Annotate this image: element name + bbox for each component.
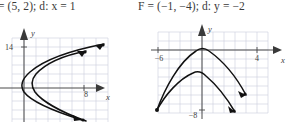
graph-panel-left: 14 8 y x bbox=[0, 20, 140, 122]
grid-right bbox=[158, 32, 268, 113]
curve-parabola-lower-right bbox=[157, 72, 235, 112]
y-axis-label-right: y bbox=[207, 24, 212, 34]
curve-endpoint-dot bbox=[81, 118, 84, 121]
y-tick-label-right: −8 bbox=[189, 111, 198, 120]
problem-left-equation: = (5, 2); d: x = 1 bbox=[0, 0, 76, 12]
y-tick-label-left: 14 bbox=[5, 43, 13, 52]
x-axis-arrow-right bbox=[273, 46, 282, 54]
curve-endpoint-dot bbox=[83, 50, 86, 53]
y-axis-arrow-right bbox=[198, 24, 206, 36]
curve-parabola-inner-left bbox=[32, 51, 86, 121]
x-tick-label-left: 8 bbox=[84, 90, 88, 99]
graph-left-svg: 14 8 y x bbox=[0, 20, 140, 122]
curve-endpoint-dot bbox=[243, 92, 246, 95]
worksheet-page: = (5, 2); d: x = 1 F = (−1, −4); d: y = … bbox=[0, 0, 303, 122]
x-axis-arrow-left bbox=[96, 84, 105, 92]
x-tick-label-right-right-graph: 4 bbox=[255, 54, 259, 63]
y-axis-arrow-left bbox=[20, 28, 28, 40]
graph-panel-right: −6 4 −8 y x bbox=[145, 20, 303, 122]
curve-parabola-outer-left bbox=[22, 44, 104, 120]
ticks-right bbox=[158, 47, 257, 110]
graph-right-svg: −6 4 −8 y x bbox=[145, 20, 303, 122]
x-axis-label-left: x bbox=[105, 92, 110, 102]
x-axis-label-right: x bbox=[280, 55, 285, 65]
problem-right-equation: F = (−1, −4); d: y = −2 bbox=[138, 0, 245, 12]
x-tick-label-left-right-graph: −6 bbox=[155, 54, 164, 63]
axes-right bbox=[151, 28, 273, 119]
y-axis-label-left: y bbox=[30, 28, 35, 38]
curve-endpoint-dot bbox=[101, 43, 104, 46]
curve-endpoint-dot bbox=[232, 109, 235, 112]
curve-endpoint-dot bbox=[155, 108, 159, 112]
